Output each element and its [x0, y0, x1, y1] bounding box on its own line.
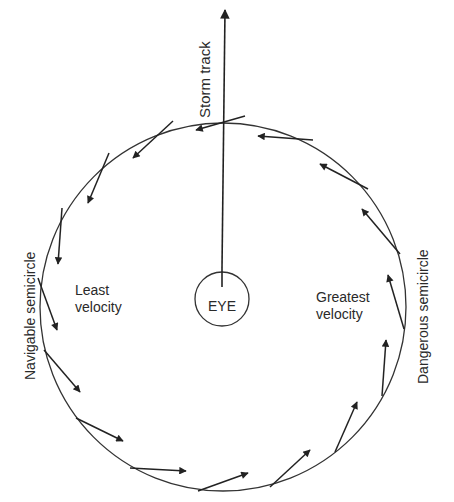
storm-diagram: Storm track EYE Least velocity Greatest …: [0, 0, 454, 502]
greatest-velocity-label-line2: velocity: [316, 306, 363, 322]
wind-arrow: [270, 450, 310, 487]
wind-arrow: [133, 121, 173, 158]
storm-track-label: Storm track: [196, 41, 213, 118]
least-velocity-label-line2: velocity: [75, 299, 122, 315]
wind-arrow: [76, 418, 123, 441]
wind-arrow: [58, 208, 62, 264]
eye-label: EYE: [208, 298, 236, 314]
navigable-semicircle-label: Navigable semicircle: [22, 251, 38, 380]
wind-arrow: [258, 136, 313, 140]
storm-track-arrow: [222, 10, 225, 268]
wind-arrow: [382, 340, 386, 396]
wind-arrow: [362, 209, 400, 254]
dangerous-semicircle-label: Dangerous semicircle: [415, 249, 431, 384]
wind-arrow: [335, 402, 357, 452]
wind-arrow: [320, 164, 368, 189]
least-velocity-label-line1: Least: [75, 282, 109, 298]
wind-arrow: [388, 275, 404, 329]
wind-arrow: [88, 153, 109, 203]
greatest-velocity-label-line1: Greatest: [316, 289, 370, 305]
wind-arrow: [44, 350, 80, 392]
wind-arrow: [198, 473, 248, 491]
